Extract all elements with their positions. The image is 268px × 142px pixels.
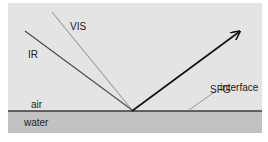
air-label: air <box>31 99 43 110</box>
vis-label: VIS <box>70 21 86 32</box>
ir-label: IR <box>28 49 38 60</box>
interface-label: interface <box>220 82 259 93</box>
sfg-diagram: VIS IR SFG interface air water <box>0 0 268 142</box>
water-label: water <box>23 117 49 128</box>
